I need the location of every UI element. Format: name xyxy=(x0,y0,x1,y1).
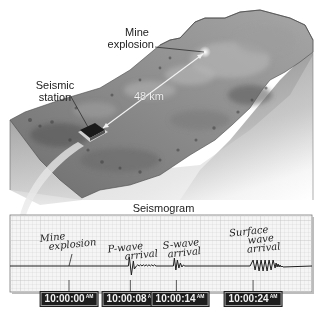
timestamp-value: 10:00:00 xyxy=(45,293,85,304)
mine-explosion-label-line1: Mine xyxy=(106,26,154,38)
distance-label: 48 km xyxy=(134,90,164,102)
mine-explosion-label-line2: explosion xyxy=(106,38,154,50)
timestamp-ampm: AM xyxy=(86,293,94,299)
seismogram-title: Seismogram xyxy=(0,202,327,214)
timestamp-value: 10:00:24 xyxy=(229,293,269,304)
event-label-surface-wave: Surface wave arrival xyxy=(229,223,281,255)
event-label-s-wave: S-wave arrival xyxy=(162,237,201,259)
seismic-station-label: Seismic station xyxy=(30,79,80,103)
event-label-p-wave: P-wave arrival xyxy=(107,239,158,262)
mine-explosion-label: Mine explosion xyxy=(106,26,154,50)
timestamp-s-wave: 10:00:14AM xyxy=(152,292,209,306)
timestamp-mine-explosion: 10:00:00AM xyxy=(41,292,98,306)
timestamp-value: 10:00:08 xyxy=(107,293,147,304)
timestamp-surface-wave: 10:00:24AM xyxy=(225,292,282,306)
timestamp-value: 10:00:14 xyxy=(156,293,196,304)
terrain-block xyxy=(10,10,313,205)
seismic-station-label-line1: Seismic xyxy=(30,79,80,91)
timestamp-ampm: AM xyxy=(197,293,205,299)
seismology-figure: Mine explosion Seismic station 48 km Sei… xyxy=(0,0,327,320)
timestamp-ampm: AM xyxy=(270,293,278,299)
seismic-station-label-line2: station xyxy=(30,91,80,103)
figure-canvas xyxy=(0,0,327,320)
